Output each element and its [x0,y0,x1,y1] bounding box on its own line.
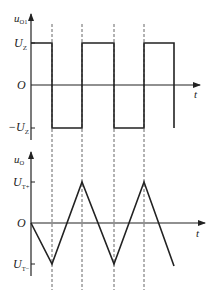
waveform-svg: uO1 UZ O −UZ t uO UT+ O UT− t [0,0,214,297]
top-low-label: −UZ [8,120,29,136]
waveform-diagram: uO1 UZ O −UZ t uO UT+ O UT− t [0,0,214,297]
bottom-high-label: UT+ [13,175,30,190]
bottom-y-label: uO [14,153,25,166]
bottom-t-label: t [196,227,200,239]
top-high-label: UZ [14,36,27,52]
top-plot: uO1 UZ O −UZ t [8,12,200,140]
bottom-origin-label: O [17,216,26,230]
top-origin-label: O [17,78,26,92]
dashed-guide-lines [52,24,144,290]
bottom-plot: uO UT+ O UT− t [13,152,205,276]
top-y-label: uO1 [14,12,27,25]
top-t-label: t [194,88,198,100]
bottom-low-label: UT− [13,257,30,272]
